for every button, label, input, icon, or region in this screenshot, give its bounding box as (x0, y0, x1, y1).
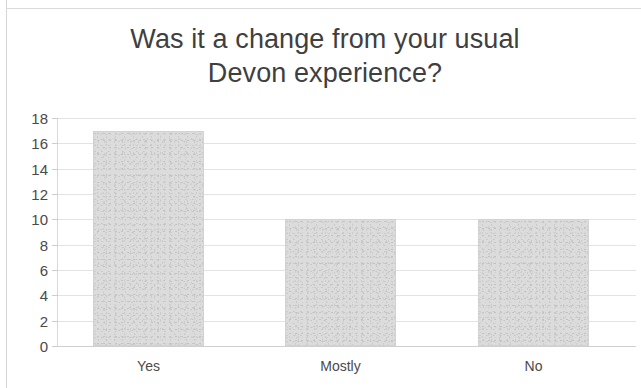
x-axis-label-yes: Yes (137, 358, 160, 374)
x-axis-label-mostly: Mostly (320, 358, 360, 374)
y-axis-tick (52, 194, 58, 195)
y-axis-tick-label: 2 (2, 312, 48, 329)
y-axis-tick (52, 346, 58, 347)
y-axis-tick-label: 12 (2, 186, 48, 203)
y-axis-tick-label: 16 (2, 135, 48, 152)
bar-mostly (285, 219, 396, 346)
gridline (58, 346, 636, 347)
x-axis-category-labels: YesMostlyNo (58, 352, 636, 382)
y-axis-tick-labels: 181614121086420 (0, 118, 48, 346)
gridline (58, 118, 636, 119)
y-axis-tick (52, 169, 58, 170)
y-axis-tick (52, 118, 58, 119)
plot-area (58, 118, 636, 346)
y-axis-tick (52, 295, 58, 296)
y-axis-tick-label: 18 (2, 110, 48, 127)
bar-no (478, 219, 589, 346)
bar-yes (93, 131, 204, 346)
y-axis-tick (52, 245, 58, 246)
y-axis-tick (52, 270, 58, 271)
y-axis-tick-label: 4 (2, 287, 48, 304)
y-axis-tick-label: 14 (2, 160, 48, 177)
x-axis-label-no: No (525, 358, 543, 374)
chart-title: Was it a change from your usual Devon ex… (60, 22, 590, 90)
y-axis-tick (52, 143, 58, 144)
bar-chart: Was it a change from your usual Devon ex… (0, 0, 641, 388)
y-axis-tick-label: 0 (2, 338, 48, 355)
y-axis-tick-label: 10 (2, 211, 48, 228)
y-axis-tick (52, 321, 58, 322)
y-axis-tick-label: 6 (2, 262, 48, 279)
y-axis-tick (52, 219, 58, 220)
y-axis-tick-label: 8 (2, 236, 48, 253)
